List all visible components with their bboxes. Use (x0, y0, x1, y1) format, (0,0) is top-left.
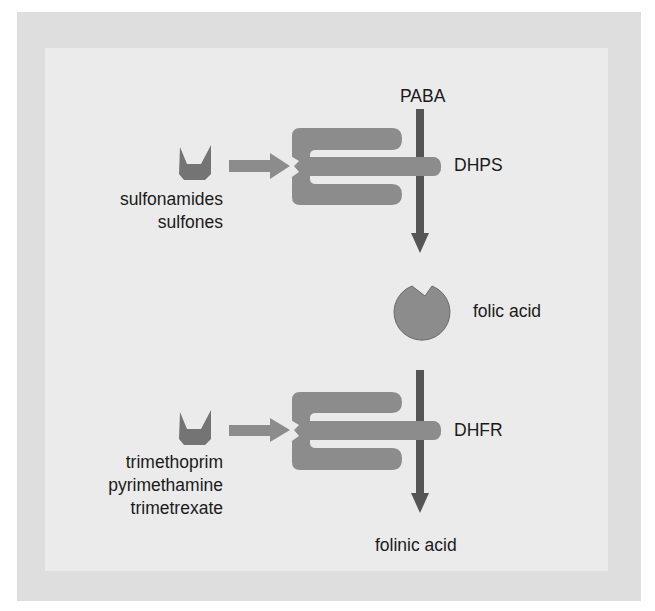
inhibitor-label-sulfones: sulfones (60, 211, 223, 234)
pathway-arrow-down-icon (411, 370, 429, 513)
inhibitor-label-trimethoprim: trimethoprim (60, 451, 223, 474)
dhps-label: DHPS (454, 154, 503, 177)
inhibitor-cup-icon (179, 145, 211, 180)
folic-acid-label: folic acid (473, 300, 541, 323)
folic-acid-molecule-icon (394, 286, 450, 340)
dhfr-label: DHFR (454, 419, 503, 442)
inhibitor-label-trimetrexate: trimetrexate (60, 497, 223, 520)
inhibitor-label-sulfonamides: sulfonamides (60, 188, 223, 211)
inhibitor-cup-icon (179, 410, 211, 445)
paba-label: PABA (400, 85, 445, 108)
inhibitor-arrow-icon (229, 418, 290, 442)
inhibitor-arrow-icon (229, 153, 290, 179)
inhibitor-label-pyrimethamine: pyrimethamine (60, 474, 223, 497)
folinic-acid-label: folinic acid (375, 534, 457, 557)
pathway-arrow-down-icon (411, 109, 429, 253)
